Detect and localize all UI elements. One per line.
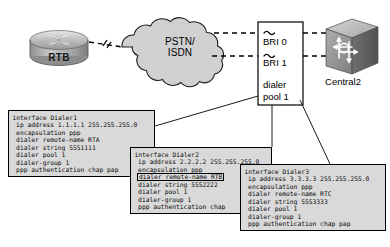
config-line: ip address 3.3.3.3 255.255.255.0 — [245, 175, 383, 183]
bri-central-links — [303, 33, 327, 56]
config-line: interface Dialer2 — [135, 151, 269, 159]
cloud-label: PSTN/ ISDN — [148, 36, 212, 58]
config-line: dialer string 5553333 — [245, 198, 383, 206]
dialer3-config-box: interface Dialer3ip address 3.3.3.3 255.… — [240, 164, 386, 231]
config-line: ip address 1.1.1.1 255.255.255.0 — [13, 121, 152, 129]
config-line: dialer pool 1 — [245, 205, 383, 213]
central2-label: Central2 — [312, 76, 374, 87]
dialer-pool-label: dialer pool 1 — [263, 79, 305, 103]
cloud-label-line2: ISDN — [148, 47, 212, 58]
config-line: encapsulation ppp — [245, 183, 383, 191]
config-line: dialer-group 1 — [245, 213, 383, 221]
rtb-cloud-link — [89, 40, 122, 48]
diagram-canvas: PSTN/ ISDN RTB Central2 BRI 0 BRI 1 dial… — [0, 0, 390, 247]
config-line: interface Dialer1 — [13, 114, 152, 122]
bri-0-label: BRI 0 — [263, 36, 303, 47]
dialer-pool-line2: pool 1 — [263, 91, 305, 103]
cloud-label-line1: PSTN/ — [148, 36, 212, 47]
config-line: ppp authentication chap pap — [245, 220, 383, 228]
rtb-label: RTB — [36, 52, 82, 63]
config-line: dialer remote-name RTC — [245, 190, 383, 198]
dialer-pool-line1: dialer — [263, 79, 305, 91]
config-line: interface Dialer3 — [245, 168, 383, 176]
config-line: dialer remote-name RTA — [13, 136, 152, 144]
switch-icon — [326, 19, 378, 74]
config-line: encapsulation ppp — [13, 129, 152, 137]
highlighted-config-line: dialer remote-name RTB — [137, 173, 224, 181]
bri-1-label: BRI 1 — [263, 57, 303, 68]
